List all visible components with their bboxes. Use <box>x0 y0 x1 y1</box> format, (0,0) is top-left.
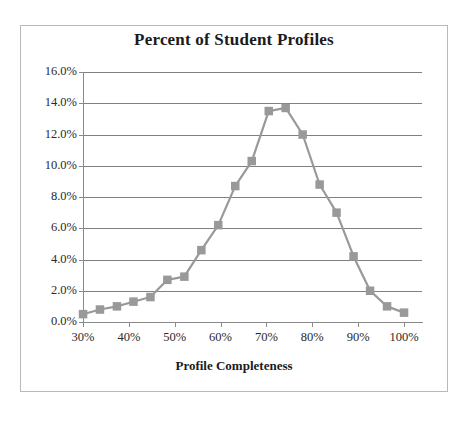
gridline-12 <box>83 135 422 136</box>
x-tick-label: 60% <box>209 330 232 345</box>
gridline-6 <box>83 228 422 229</box>
y-tick-label: 6.0% <box>51 220 77 235</box>
gridline-14 <box>83 103 422 104</box>
y-tickmark <box>79 228 83 229</box>
x-tick-label: 90% <box>347 330 370 345</box>
x-tickmark <box>266 322 267 327</box>
x-tick-label: 50% <box>163 330 186 345</box>
x-tick-label: 30% <box>72 330 95 345</box>
y-tick-label: 8.0% <box>51 189 77 204</box>
y-tick-label: 16.0% <box>45 64 77 79</box>
x-tick-label: 40% <box>117 330 140 345</box>
y-tick-label: 4.0% <box>51 252 77 267</box>
y-tickmark <box>79 291 83 292</box>
chart-screenshot: Percent of Student Profiles 0.0%2.0%4.0%… <box>0 0 471 422</box>
x-tickmark <box>83 322 84 327</box>
y-tickmark <box>79 197 83 198</box>
y-tick-label: 2.0% <box>51 283 77 298</box>
gridline-4 <box>83 260 422 261</box>
gridline-8 <box>83 197 422 198</box>
x-tick-label: 70% <box>255 330 278 345</box>
x-tickmark <box>358 322 359 327</box>
y-tickmark <box>79 166 83 167</box>
x-tickmark <box>175 322 176 327</box>
y-tick-label: 10.0% <box>45 158 77 173</box>
y-tickmark <box>79 103 83 104</box>
y-tickmark <box>79 72 83 73</box>
x-axis-title: Profile Completeness <box>20 358 448 374</box>
y-tick-label: 14.0% <box>45 95 77 110</box>
y-axis-line <box>83 72 84 323</box>
y-tick-label: 12.0% <box>45 127 77 142</box>
y-tick-label: 0.0% <box>51 314 77 329</box>
gridline-2 <box>83 291 422 292</box>
x-axis-line <box>83 322 423 323</box>
gridline-16 <box>83 72 422 73</box>
x-tickmark <box>221 322 222 327</box>
plot-area <box>83 72 422 322</box>
x-tick-label: 100% <box>389 330 418 345</box>
x-tick-label: 80% <box>301 330 324 345</box>
y-tickmark <box>79 260 83 261</box>
x-tickmark <box>129 322 130 327</box>
x-tickmark <box>312 322 313 327</box>
x-tickmark <box>404 322 405 327</box>
gridline-10 <box>83 166 422 167</box>
y-tickmark <box>79 135 83 136</box>
chart-title: Percent of Student Profiles <box>20 30 448 50</box>
